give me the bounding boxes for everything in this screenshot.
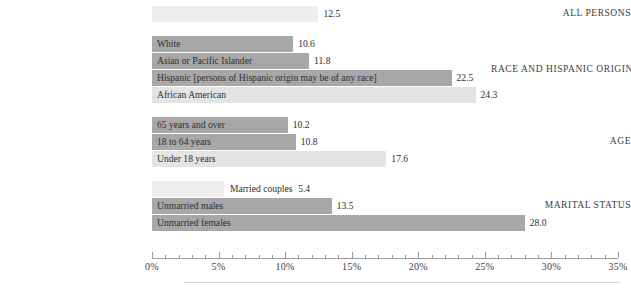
axis-tick-major — [618, 252, 619, 258]
axis-tick-minor — [298, 255, 299, 258]
bar-label: White — [157, 36, 180, 52]
bar-label: Unmarried females — [157, 215, 231, 231]
axis-tick-minor — [378, 255, 379, 258]
axis-tick-minor — [232, 255, 233, 258]
axis-tick-minor — [259, 255, 260, 258]
axis-tick-minor — [205, 255, 206, 258]
axis-tick-minor — [591, 255, 592, 258]
bar-label: 65 years and over — [157, 117, 225, 133]
axis-tick-minor — [498, 255, 499, 258]
axis-tick-label: 5% — [212, 261, 226, 272]
axis-tick-label: 30% — [542, 261, 561, 272]
group-category-label: MARITAL STATUS — [491, 200, 631, 211]
axis-tick-minor — [245, 255, 246, 258]
axis-tick-minor — [405, 255, 406, 258]
bar-value-label: 5.4 — [230, 181, 310, 197]
axis-tick-minor — [192, 255, 193, 258]
axis-tick-label: 25% — [475, 261, 494, 272]
axis-tick-minor — [272, 255, 273, 258]
axis-tick-minor — [165, 255, 166, 258]
group-category-label: AGE — [491, 136, 631, 147]
axis-tick-label: 0% — [145, 261, 159, 272]
axis-tick-minor — [365, 255, 366, 258]
axis-tick-minor — [458, 255, 459, 258]
bar-value-label: 22.5 — [457, 70, 474, 86]
axis-tick-minor — [525, 255, 526, 258]
axis-tick-minor — [325, 255, 326, 258]
bar-value-label: 24.3 — [481, 87, 498, 103]
axis-tick-major — [219, 252, 220, 258]
bar-label: Hispanic [persons of Hispanic origin may… — [157, 70, 377, 86]
group-category-label: RACE AND HISPANIC ORIGIN — [491, 64, 631, 75]
bar-value-label: 11.8 — [314, 53, 330, 69]
bar-label: Under 18 years — [157, 151, 216, 167]
bar-value-label: 28.0 — [530, 215, 547, 231]
axis-tick-major — [152, 252, 153, 258]
x-axis — [152, 258, 618, 259]
axis-tick-label: 20% — [409, 261, 428, 272]
bar-label: 18 to 64 years — [157, 134, 211, 150]
axis-tick-minor — [432, 255, 433, 258]
bar-value-label: 13.5 — [337, 198, 354, 214]
axis-tick-label: 15% — [342, 261, 361, 272]
axis-tick-minor — [338, 255, 339, 258]
axis-tick-minor — [605, 255, 606, 258]
axis-tick-minor — [312, 255, 313, 258]
axis-tick-minor — [511, 255, 512, 258]
bottom-divider-rule — [183, 282, 620, 283]
bar-label: African American — [157, 87, 226, 103]
axis-tick-major — [285, 252, 286, 258]
axis-tick-label: 35% — [608, 261, 627, 272]
axis-tick-minor — [445, 255, 446, 258]
axis-tick-label: 10% — [276, 261, 295, 272]
axis-tick-major — [352, 252, 353, 258]
bar — [152, 181, 224, 197]
bar — [152, 6, 318, 22]
axis-tick-minor — [472, 255, 473, 258]
bar-label: Asian or Pacific Islander — [157, 53, 252, 69]
bar-label: Unmarried males — [157, 198, 223, 214]
bar-value-label: 10.6 — [298, 36, 315, 52]
bar-value-label: 10.2 — [293, 117, 310, 133]
axis-tick-major — [551, 252, 552, 258]
axis-tick-minor — [578, 255, 579, 258]
axis-tick-major — [418, 252, 419, 258]
axis-tick-minor — [179, 255, 180, 258]
axis-tick-minor — [538, 255, 539, 258]
axis-tick-minor — [392, 255, 393, 258]
poverty-rate-bar-chart: 12.5White10.6Asian or Pacific Islander11… — [0, 0, 631, 297]
bar-value-label: 10.8 — [301, 134, 318, 150]
axis-tick-major — [485, 252, 486, 258]
bar-value-label: 12.5 — [323, 6, 340, 22]
bar-value-label: 17.6 — [391, 151, 408, 167]
axis-tick-minor — [565, 255, 566, 258]
group-category-label: ALL PERSONS — [491, 8, 631, 19]
